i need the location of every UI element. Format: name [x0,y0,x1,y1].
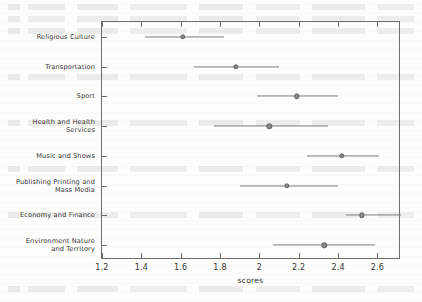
x-tick-bottom [181,253,182,258]
category-label: Health and Health Services [0,118,95,134]
x-tick-bottom [377,253,378,258]
x-tick-bottom [338,253,339,258]
data-point-marker [359,213,364,218]
y-tick [102,37,107,38]
x-tick-top [141,22,142,27]
x-tick-top [338,22,339,27]
data-point-marker [267,123,272,128]
data-point-marker [322,242,327,247]
x-tick-bottom [141,253,142,258]
data-point-marker [294,94,299,99]
category-label: Sport [0,92,95,100]
x-axis-title: scores [237,276,263,285]
data-point-marker [339,153,344,158]
x-tick-label: 2.4 [331,263,344,272]
x-tick-label: 2 [257,263,262,272]
y-tick [102,96,107,97]
data-point-marker [233,64,238,69]
x-tick-label: 1.2 [95,263,108,272]
category-label: Environment Nature and Territory [0,237,95,253]
category-label: Economy and Finance [0,211,95,219]
category-label: Religious Culture [0,33,95,41]
x-tick-top [181,22,182,27]
x-tick-label: 1.8 [213,263,226,272]
category-label: Music and Shows [0,152,95,160]
data-point-marker [284,183,289,188]
x-tick-bottom [259,253,260,258]
x-tick-label: 1.6 [174,263,187,272]
x-tick-top [377,22,378,27]
x-tick-bottom [220,253,221,258]
category-label: Transportation [0,63,95,71]
y-tick [102,67,107,68]
x-tick-bottom [299,253,300,258]
x-tick-top [102,22,103,27]
x-tick-top [299,22,300,27]
x-tick-top [259,22,260,27]
data-point-marker [180,34,185,39]
y-tick [102,245,107,246]
plot-area: Religious CultureTransportationSportHeal… [101,21,400,259]
y-tick [102,156,107,157]
x-tick-bottom [102,253,103,258]
x-tick-label: 2.6 [371,263,384,272]
y-tick [102,186,107,187]
category-label: Publishing Printing and Mass Media [0,177,95,193]
y-tick [102,215,107,216]
x-tick-top [220,22,221,27]
y-tick [102,126,107,127]
x-tick-label: 1.4 [135,263,148,272]
dot-plot-chart: Religious CultureTransportationSportHeal… [0,0,422,302]
confidence-interval-line [346,215,401,216]
x-tick-label: 2.2 [292,263,305,272]
